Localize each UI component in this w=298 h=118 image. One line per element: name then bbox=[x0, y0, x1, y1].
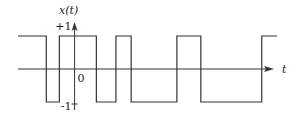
axes bbox=[18, 22, 274, 110]
y-axis-label: x(t) bbox=[59, 4, 78, 17]
origin-label: 0 bbox=[78, 72, 85, 85]
y-tick-label-minus1: -1 bbox=[61, 100, 72, 113]
y-tick-label-plus1: +1 bbox=[55, 20, 71, 33]
chart-container: x(t) t +1 -1 0 bbox=[0, 0, 298, 118]
x-axis-label: t bbox=[282, 63, 287, 76]
waveform-chart: x(t) t +1 -1 0 bbox=[0, 0, 298, 118]
